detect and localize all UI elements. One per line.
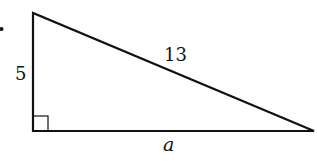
right-triangle-diagram: 5 13 a — [0, 0, 317, 161]
label-hypotenuse: 13 — [164, 44, 187, 65]
triangle-outline — [33, 13, 314, 131]
right-angle-marker — [33, 116, 48, 131]
label-horizontal-leg: a — [163, 133, 174, 155]
label-vertical-leg: 5 — [15, 63, 26, 84]
bullet-dot — [0, 27, 4, 31]
